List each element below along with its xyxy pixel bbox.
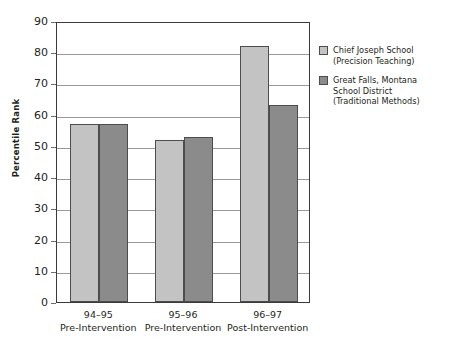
bar-94-95-series1 [70, 124, 99, 302]
bar-chart-figure: Percentile Rank 9080706050403020100 94–9… [0, 0, 451, 344]
bar-95-96-series2 [184, 137, 213, 302]
x-axis-year-3: 96–97 [213, 308, 323, 321]
legend-entry-2: Great Falls, MontanaSchool District(Trad… [319, 75, 451, 107]
legend-label-2: Great Falls, MontanaSchool District(Trad… [333, 75, 420, 107]
y-tick-label-80: 80 [16, 47, 48, 58]
bar-95-96-series1 [155, 140, 184, 302]
y-tick-label-40: 40 [16, 172, 48, 183]
y-tick-label-60: 60 [16, 110, 48, 121]
y-tick-label-70: 70 [16, 78, 48, 89]
y-tick-label-90: 90 [16, 16, 48, 27]
y-tick-label-10: 10 [16, 266, 48, 277]
legend-label-1: Chief Joseph School(Precision Teaching) [333, 45, 415, 66]
gridline-70 [57, 85, 309, 86]
x-axis-group-3: 96–97Post-Intervention [213, 308, 323, 334]
chart-legend: Chief Joseph School(Precision Teaching)G… [319, 45, 451, 116]
plot-area [56, 22, 310, 303]
y-tick-label-30: 30 [16, 203, 48, 214]
legend-swatch-icon-1 [319, 46, 328, 55]
x-axis-phase-3: Post-Intervention [213, 321, 323, 334]
legend-swatch-icon-2 [319, 76, 328, 85]
y-axis-title: Percentile Rank [11, 93, 21, 183]
y-tick-label-20: 20 [16, 235, 48, 246]
bar-96-97-series2 [269, 105, 298, 302]
y-tick-0 [51, 303, 56, 304]
gridline-80 [57, 54, 309, 55]
y-tick-label-50: 50 [16, 141, 48, 152]
bar-94-95-series2 [99, 124, 128, 302]
y-tick-label-0: 0 [16, 297, 48, 308]
bar-96-97-series1 [240, 46, 269, 302]
legend-entry-1: Chief Joseph School(Precision Teaching) [319, 45, 451, 66]
